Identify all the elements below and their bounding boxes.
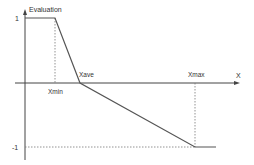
xmin-label: Xmin [48,88,63,95]
evaluation-diagram: Evaluation X 1 -1 Xmin Xave Xmax [0,0,254,165]
y-tick-1: 1 [15,15,19,22]
xave-label: Xave [79,71,94,78]
x-axis-arrow [234,81,240,85]
xmax-label: Xmax [188,71,205,78]
x-axis-label: X [236,72,241,79]
y-tick-minus-1: -1 [12,144,18,151]
y-axis-label: Evaluation [29,6,62,13]
y-axis-arrow [23,9,27,15]
